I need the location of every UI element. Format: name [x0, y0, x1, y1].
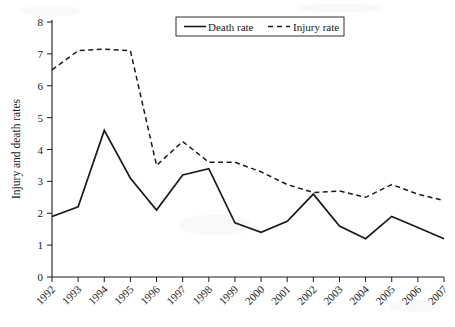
- y-tick-group: 012345678: [38, 16, 53, 283]
- x-tick-label-1998: 1998: [190, 283, 214, 307]
- y-tick-label-3: 3: [38, 175, 44, 187]
- x-tick-label-2004: 2004: [347, 283, 371, 307]
- legend-label-injury-rate: Injury rate: [293, 21, 339, 33]
- x-tick-label-2002: 2002: [295, 283, 319, 307]
- series-line-death-rate: [52, 130, 444, 238]
- y-tick-label-7: 7: [38, 48, 44, 60]
- chart-figure: Injury and death rates 012345678 1992199…: [0, 0, 455, 327]
- y-tick-label-5: 5: [38, 112, 44, 124]
- x-tick-label-1999: 1999: [216, 283, 240, 307]
- x-tick-label-1996: 1996: [138, 283, 162, 307]
- legend-label-death-rate: Death rate: [208, 21, 254, 33]
- x-tick-label-1997: 1997: [164, 283, 188, 307]
- y-tick-label-6: 6: [38, 80, 44, 92]
- x-tick-label-2006: 2006: [399, 283, 423, 307]
- x-tick-label-1992: 1992: [33, 283, 57, 307]
- x-tick-label-1995: 1995: [112, 283, 136, 307]
- x-tick-label-2000: 2000: [242, 283, 266, 307]
- chart-legend: Death rate Injury rate: [176, 17, 344, 36]
- y-tick-label-2: 2: [38, 207, 44, 219]
- x-tick-label-1993: 1993: [60, 283, 84, 307]
- series-group: [52, 49, 444, 239]
- x-tick-label-2007: 2007: [425, 283, 449, 307]
- line-chart: Injury and death rates 012345678 1992199…: [0, 0, 455, 327]
- y-tick-label-8: 8: [38, 16, 44, 28]
- y-axis-title: Injury and death rates: [10, 99, 23, 199]
- x-tick-label-1994: 1994: [86, 283, 110, 307]
- x-tick-label-2005: 2005: [373, 283, 397, 307]
- x-tick-label-2001: 2001: [269, 283, 293, 307]
- y-tick-label-1: 1: [38, 239, 44, 251]
- x-tick-label-2003: 2003: [321, 283, 345, 307]
- x-tick-group: 1992199319941995199619971998199920002001…: [33, 277, 449, 307]
- y-tick-label-4: 4: [38, 144, 44, 156]
- y-tick-label-0: 0: [38, 271, 44, 283]
- series-line-injury-rate: [52, 49, 444, 200]
